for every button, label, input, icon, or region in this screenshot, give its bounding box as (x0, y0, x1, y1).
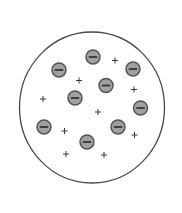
electron-minus-circle-icon (126, 62, 140, 76)
electron-minus-circle-icon (37, 120, 51, 134)
diagram-canvas (0, 0, 182, 213)
electron-minus-circle-icon (52, 63, 66, 77)
electron-minus-circle-icon (80, 135, 94, 149)
electron-minus-circle-icon (134, 101, 148, 115)
electron-minus-circle-icon (111, 120, 125, 134)
electron-minus-circle-icon (99, 79, 113, 93)
electron-minus-circle-icon (86, 50, 100, 64)
electron-minus-circle-icon (68, 91, 82, 105)
plum-pudding-atom-diagram (0, 0, 182, 213)
